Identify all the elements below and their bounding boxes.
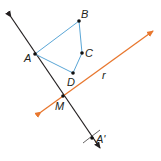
reflection-diagram: A B C D M A' r: [0, 0, 161, 161]
point-A-prime: [90, 136, 94, 140]
label-r: r: [102, 69, 107, 81]
label-M: M: [55, 100, 65, 112]
label-A-prime: A': [95, 133, 106, 145]
point-C: [80, 51, 84, 55]
label-C: C: [85, 47, 93, 59]
point-D: [71, 71, 75, 75]
point-M: [61, 94, 65, 98]
label-B: B: [81, 8, 88, 20]
label-D: D: [67, 76, 75, 88]
quadrilateral-ABCD: [35, 21, 82, 73]
point-A: [33, 52, 37, 56]
diagram-canvas: A B C D M A' r: [0, 0, 161, 161]
label-A: A: [23, 52, 31, 64]
line-AA-prime: [11, 17, 100, 148]
